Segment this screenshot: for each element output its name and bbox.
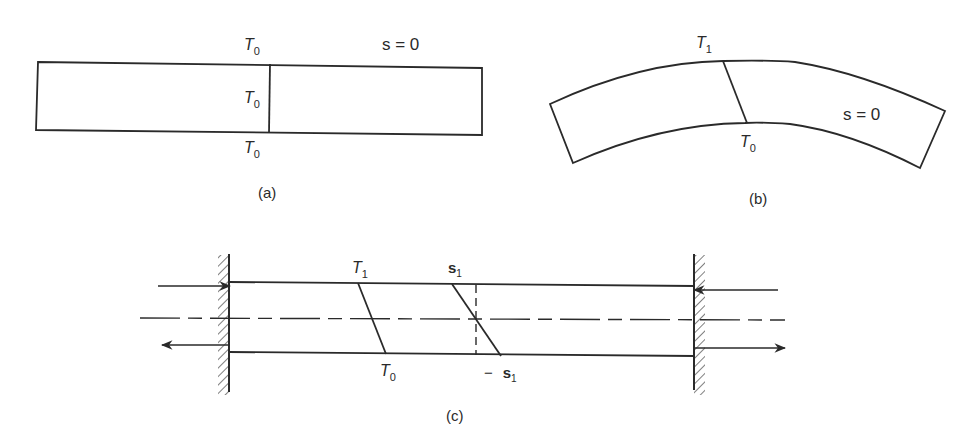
figure-canvas: T0 T0 T0 s = 0 (a) T1 T0 s = 0 (b) [0, 0, 979, 446]
caption-b: (b) [749, 190, 767, 207]
right-wall-hatching [694, 255, 705, 395]
bar-bottom-edge [229, 352, 694, 356]
panel-b [550, 61, 945, 168]
caption-a: (a) [258, 184, 276, 201]
left-wall-hatching [218, 255, 229, 395]
bent-bar-outline [550, 61, 945, 168]
label-bot-T: T0 [244, 139, 260, 160]
panel-a-labels: T0 T0 T0 s = 0 (a) [244, 35, 419, 201]
bar-top-edge [229, 282, 694, 286]
label-bot-neg-s1: −s1 [484, 364, 517, 384]
tilted-section-line [723, 61, 747, 123]
label-top-T: T0 [244, 36, 260, 57]
stress-section-line [452, 284, 501, 356]
label-top-s1: s1 [448, 259, 462, 279]
label-stress-zero: s = 0 [843, 105, 880, 124]
label-mid-T: T0 [244, 89, 260, 110]
label-bot-T0: T0 [380, 362, 396, 383]
label-top-T1: T1 [696, 34, 712, 55]
section-line [269, 64, 270, 133]
centerline [140, 318, 785, 320]
panel-b-labels: T1 T0 s = 0 (b) [696, 34, 880, 207]
label-bot-T0: T0 [740, 133, 756, 154]
panel-c [140, 254, 785, 395]
caption-c: (c) [446, 407, 464, 424]
label-top-T1: T1 [352, 259, 368, 280]
label-stress-zero: s = 0 [382, 35, 419, 54]
